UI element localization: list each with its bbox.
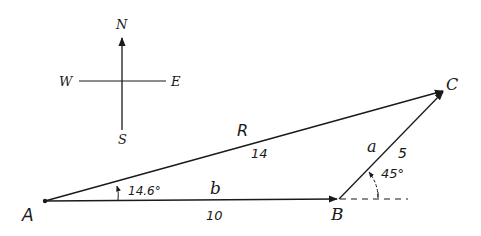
resultant-label: R: [237, 121, 248, 140]
vector-a-magnitude: 5: [398, 145, 407, 161]
point-a-label: A: [21, 205, 34, 225]
compass-west-label: W: [59, 74, 74, 89]
vector-a-label: a: [367, 137, 377, 156]
vector-resultant: [45, 91, 443, 201]
point-a-dot: [43, 199, 47, 203]
resultant-magnitude: 14: [251, 146, 268, 161]
compass-south-label: S: [118, 132, 127, 147]
vector-a: [339, 92, 443, 199]
vector-b-label: b: [210, 178, 221, 198]
vector-diagram: N S W E A B C R 14 b 10 a 5 14.6° 45°: [0, 0, 481, 236]
compass-north-label: N: [115, 17, 128, 32]
compass: N S W E: [59, 17, 181, 147]
point-b-label: B: [330, 204, 344, 224]
vector-b-magnitude: 10: [206, 208, 223, 223]
angle-arc-b: [369, 172, 378, 197]
point-c-label: C: [446, 75, 458, 94]
angle-a-label: 14.6°: [128, 184, 161, 198]
compass-east-label: E: [170, 74, 181, 89]
angle-arc-a: [117, 186, 118, 201]
angle-b-label: 45°: [381, 166, 404, 181]
vector-b: [45, 199, 337, 201]
